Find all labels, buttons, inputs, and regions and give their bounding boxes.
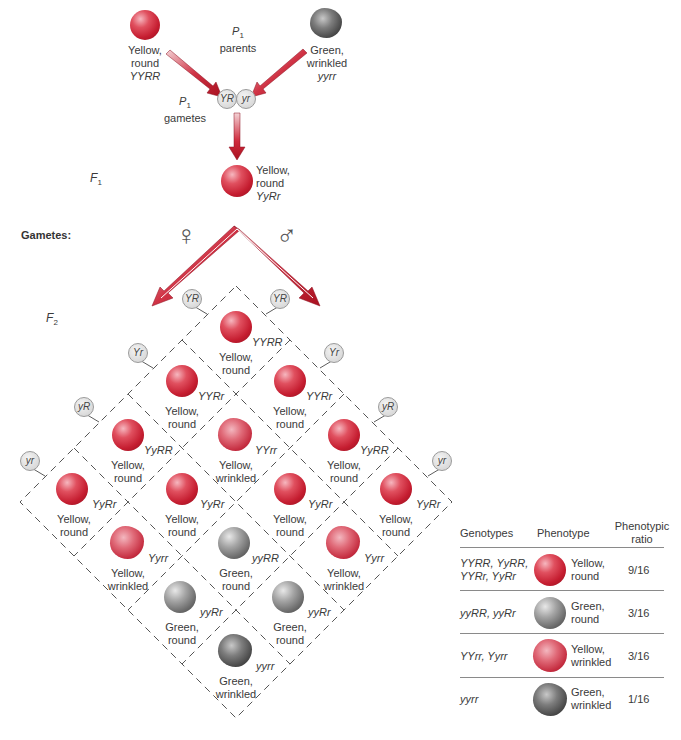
row-genotypes: YYRR, YyRR,YYRr, YyRr: [460, 557, 528, 583]
cell-phenotype: Yellow,round: [366, 513, 426, 539]
male-symbol-icon: ♂: [276, 222, 297, 250]
pea-green-wrinkled-parent: [310, 8, 342, 38]
male-gamete-yR: yR: [378, 397, 398, 417]
cell-phenotype: Yellow,round: [152, 405, 212, 431]
cell-phenotype: Yellow,wrinkled: [314, 567, 374, 593]
pea-yellow-round: [220, 311, 252, 343]
cell-genotype: YYRr: [198, 390, 224, 402]
female-gamete-yR: yR: [74, 397, 94, 417]
cell-genotype: Yyrr: [148, 552, 168, 564]
row-genotypes: YYrr, Yyrr: [460, 650, 507, 663]
right-parent-label: Green, wrinkled yyrr: [296, 44, 358, 83]
pea-yellow-round: [166, 473, 198, 505]
pea-green-round: [534, 597, 566, 629]
cell-phenotype: Green,wrinkled: [206, 675, 266, 701]
cell-genotype: yyRr: [308, 606, 331, 618]
pea-yellow-round: [380, 473, 412, 505]
header-genotypes: Genotypes: [460, 527, 513, 540]
male-gamete-Yr: Yr: [324, 343, 344, 363]
pea-f1-yellow-round: [221, 165, 253, 197]
pea-green-round: [272, 581, 304, 613]
f1-description: Yellow, round YyRr: [256, 164, 302, 203]
cell-genotype: yyrr: [256, 660, 274, 672]
diagram-graphics: [0, 0, 681, 740]
pea-yellow-round: [274, 365, 306, 397]
female-symbol-icon: ♀: [176, 222, 197, 250]
row-genotypes: yyRR, yyRr: [460, 607, 516, 620]
pea-yellow-round: [166, 365, 198, 397]
cell-genotype: YyRr: [308, 498, 332, 510]
p1-parents-label: P1 parents: [203, 25, 273, 55]
f1-label: F1: [86, 172, 106, 189]
pea-green-wrinkled: [533, 683, 567, 716]
pea-yellow-round: [274, 473, 306, 505]
male-gamete-YR: YR: [270, 289, 290, 309]
male-gamete-yr: yr: [432, 451, 452, 471]
cell-genotype: Yyrr: [364, 552, 384, 564]
row-ratio: 3/16: [628, 650, 649, 663]
cell-genotype: YYRR: [252, 336, 283, 348]
table-rule: [460, 677, 664, 678]
left-parent-label: Yellow, round YYRR: [115, 44, 175, 83]
cell-phenotype: Yellow,round: [98, 459, 158, 485]
cell-phenotype: Yellow,round: [260, 513, 320, 539]
cell-phenotype: Green,round: [260, 621, 320, 647]
cell-genotype: yyRr: [200, 606, 223, 618]
cell-genotype: YyRR: [360, 444, 389, 456]
female-gamete-Yr: Yr: [128, 343, 148, 363]
pea-yellow-wrinkled: [110, 526, 144, 559]
pea-yellow-round: [534, 554, 566, 586]
p1-gamete-yr: yr: [236, 89, 256, 109]
row-ratio: 3/16: [628, 607, 649, 620]
row-ratio: 9/16: [628, 564, 649, 577]
cell-genotype: YyRr: [200, 498, 224, 510]
row-genotypes: yyrr: [460, 693, 478, 706]
table-rule: [460, 590, 664, 591]
cell-genotype: YYrr: [255, 444, 277, 456]
table-rule: [460, 633, 664, 634]
pea-green-round: [218, 527, 250, 559]
pea-yellow-round-parent: [130, 10, 160, 40]
pea-green-wrinkled: [218, 634, 252, 667]
p1-gametes-label: P1 gametes: [160, 95, 210, 125]
cell-genotype: yyRR: [252, 552, 279, 564]
header-ratio: Phenotypicratio: [612, 520, 672, 546]
cell-phenotype: Green,round: [152, 621, 212, 647]
row-ratio: 1/16: [628, 693, 649, 706]
arrow-gametes-to-f1: [229, 113, 245, 160]
cell-genotype: YyRr: [92, 498, 116, 510]
cell-phenotype: Yellow,wrinkled: [206, 459, 266, 485]
pea-yellow-wrinkled: [326, 526, 360, 559]
cell-phenotype: Green,round: [206, 567, 266, 593]
row-phenotype: Yellow,wrinkled: [571, 643, 611, 669]
pea-green-round: [164, 581, 196, 613]
female-gamete-yr: yr: [20, 451, 40, 471]
cell-genotype: YyRr: [416, 498, 440, 510]
header-phenotype: Phenotype: [537, 527, 590, 540]
row-phenotype: Yellow,round: [571, 557, 605, 583]
cell-phenotype: Yellow,round: [260, 405, 320, 431]
pea-yellow-wrinkled: [533, 639, 567, 672]
p1-gamete-YR: YR: [217, 89, 237, 109]
cell-phenotype: Yellow,round: [206, 351, 266, 377]
cell-genotype: YYRr: [306, 390, 332, 402]
row-phenotype: Green,round: [571, 600, 605, 626]
cell-phenotype: Yellow,round: [314, 459, 374, 485]
gametes-section-label: Gametes:: [21, 229, 71, 241]
cell-phenotype: Yellow,round: [152, 513, 212, 539]
pea-yellow-round: [112, 419, 144, 451]
cell-phenotype: Yellow,round: [44, 513, 104, 539]
cell-phenotype: Yellow,wrinkled: [98, 567, 158, 593]
f2-label: F2: [42, 312, 62, 329]
pea-yellow-round: [56, 473, 88, 505]
female-gamete-YR: YR: [182, 289, 202, 309]
pea-yellow-wrinkled: [218, 418, 252, 451]
table-rule: [460, 547, 664, 548]
pea-yellow-round: [328, 419, 360, 451]
cell-genotype: YyRR: [144, 444, 173, 456]
row-phenotype: Green,wrinkled: [571, 686, 611, 712]
